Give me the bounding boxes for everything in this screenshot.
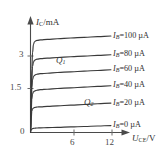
series-label-100uA: IB=100 µA xyxy=(113,32,149,40)
curves-group xyxy=(31,36,111,133)
y-tick-label-1p5: 1.5 xyxy=(10,83,21,92)
curve-80uA xyxy=(31,55,111,133)
series-label-value: =40 µA xyxy=(119,80,144,89)
transistor-output-characteristics-chart: IC/mA UCE/V 0 1.5 3 6 12 IB=100 µAIB=80 … xyxy=(0,0,164,156)
annotation-q2: Q2 xyxy=(84,98,94,107)
x-axis-arrowhead xyxy=(122,129,131,135)
y-axis-arrowhead xyxy=(27,16,33,25)
curve-0uA xyxy=(31,126,111,133)
series-label-value: =80 µA xyxy=(119,49,144,58)
curve-100uA xyxy=(31,36,111,133)
series-label-40uA: IB=40 µA xyxy=(113,81,145,89)
tick-marks-group xyxy=(28,56,113,136)
series-label-20uA: IB=20 µA xyxy=(113,99,145,107)
x-axis-title-unit: /V xyxy=(146,133,155,143)
series-label-value: =20 µA xyxy=(119,98,144,107)
x-tick-label-12: 12 xyxy=(105,138,114,147)
series-label-value: =100 µA xyxy=(119,31,149,40)
series-label-80uA: IB=80 µA xyxy=(113,50,145,58)
series-label-value: =60 µA xyxy=(119,64,144,73)
x-tick-label-6: 6 xyxy=(70,138,75,147)
series-label-0uA: IB=0 µA xyxy=(113,121,141,129)
annotation-q1: Q1 xyxy=(56,56,66,65)
x-axis-title: UCE/V xyxy=(132,134,155,143)
annotation-subscript: 1 xyxy=(63,59,66,65)
curve-60uA xyxy=(31,70,111,133)
y-axis-title: IC/mA xyxy=(36,18,59,27)
series-label-value: =0 µA xyxy=(119,120,140,129)
origin-tick-label: 0 xyxy=(20,127,25,136)
series-label-60uA: IB=60 µA xyxy=(113,65,145,73)
annotation-subscript: 2 xyxy=(91,101,94,107)
y-axis-title-unit: /mA xyxy=(43,17,59,27)
y-tick-label-3: 3 xyxy=(19,50,24,59)
